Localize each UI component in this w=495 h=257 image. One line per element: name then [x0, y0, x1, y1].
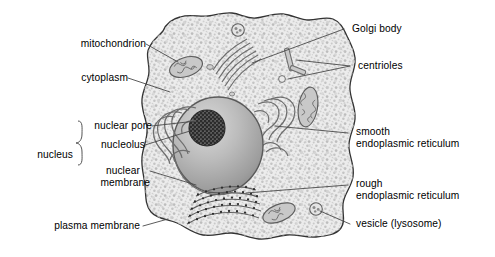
label-rough-er-line1: rough — [356, 178, 383, 190]
nucleus-shape — [173, 97, 263, 195]
label-rough-er-line2: endoplasmic reticulum — [356, 190, 459, 202]
label-plasma-membrane: plasma membrane — [10, 220, 140, 232]
label-cytoplasm: cytoplasm — [10, 72, 128, 84]
label-nuclear-membrane-line2: membrane — [10, 177, 150, 189]
label-nucleus-group: nucleus — [5, 149, 73, 161]
label-smooth-er-line2: endoplasmic reticulum — [356, 138, 459, 150]
label-nuclear-membrane-line1: nuclear — [10, 165, 140, 177]
centriole-vesicle — [279, 76, 286, 83]
label-smooth-er-line1: smooth — [356, 126, 390, 138]
label-centrioles: centrioles — [358, 60, 403, 72]
vesicle-shape-lower-right — [310, 203, 323, 216]
label-vesicle-lysosome: vesicle (lysosome) — [356, 218, 442, 230]
cell-diagram: mitochondrion cytoplasm nuclear pore nuc… — [0, 0, 495, 257]
vesicle-shape-top — [232, 24, 245, 37]
label-mitochondrion: mitochondrion — [10, 38, 146, 50]
nucleolus-shape — [189, 110, 225, 146]
leader-plasma-membrane — [143, 219, 168, 226]
label-nuclear-pore: nuclear pore — [10, 120, 152, 132]
label-golgi-body: Golgi body — [352, 23, 402, 35]
